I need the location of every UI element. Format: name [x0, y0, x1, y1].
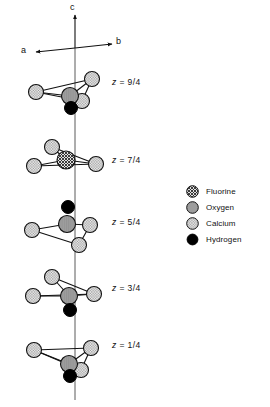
- axis-cross: [36, 15, 112, 52]
- z-value: 3/4: [128, 283, 141, 293]
- z-equals-sign: =: [117, 77, 128, 87]
- legend-item-oxygen: Oxygen: [186, 200, 270, 215]
- atom-hydrogen-hydrogen-bottom: Hydrogen: [64, 304, 77, 317]
- atom-hydrogen-hydrogen-bottom: Hydrogen: [65, 102, 78, 115]
- z-equals-sign: =: [117, 340, 128, 350]
- z-equals-sign: =: [117, 155, 128, 165]
- b-axis-arrow: [75, 44, 112, 48]
- z-label-1-4: z = 1/4: [112, 340, 141, 350]
- z-label-9-4: z = 9/4: [112, 77, 141, 87]
- legend-label: Oxygen: [206, 203, 234, 212]
- structure-figure: CalciumCalciumCalciumOxygenHydrogenCalci…: [0, 0, 270, 407]
- atom-hydrogen-hydrogen-bottom: Hydrogen: [64, 370, 77, 383]
- atom-calcium-calcium-right: Calcium: [87, 287, 102, 302]
- z-label-5-4: z = 5/4: [112, 217, 141, 227]
- atom-cluster-z-1-4: CalciumCalciumCalciumOxygenHydrogen: [27, 341, 99, 383]
- fluorine-atom-icon: [186, 185, 199, 198]
- a-axis-arrow: [36, 48, 75, 52]
- atom-calcium-calcium-upper-left: Calcium: [45, 270, 60, 285]
- legend-label: Calcium: [206, 219, 236, 228]
- atom-calcium-calcium-upper-right: Calcium: [84, 341, 99, 356]
- atom-cluster-z-3-4: CalciumCalciumCalciumOxygenHydrogen: [26, 270, 102, 317]
- hydrogen-atom-icon: [186, 233, 199, 246]
- legend-item-fluorine: Fluorine: [186, 184, 270, 199]
- atom-cluster-z-9-4: CalciumCalciumCalciumOxygenHydrogen: [29, 72, 100, 115]
- z-equals-sign: =: [117, 217, 128, 227]
- legend-item-hydrogen: Hydrogen: [186, 232, 270, 247]
- atom-oxygen-oxygen-center: Oxygen: [59, 216, 76, 233]
- z-equals-sign: =: [117, 283, 128, 293]
- legend: FluorineOxygenCalciumHydrogen: [186, 184, 270, 248]
- z-label-3-4: z = 3/4: [112, 283, 141, 293]
- atom-fluorine-fluorine-center: Fluorine: [57, 151, 75, 169]
- z-value: 5/4: [128, 217, 141, 227]
- axis-label-b: b: [116, 36, 121, 46]
- legend-label: Hydrogen: [206, 235, 242, 244]
- bond-calcium-left-to-calcium-upper-right: [34, 348, 91, 350]
- axis-label-a: a: [21, 45, 26, 55]
- calcium-atom-icon: [186, 217, 199, 230]
- oxygen-atom-icon: [186, 201, 199, 214]
- atom-cluster-z-7-4: CalciumCalciumCalciumFluorine: [27, 140, 104, 174]
- atom-hydrogen-hydrogen-top: Hydrogen: [62, 201, 75, 214]
- atom-calcium-calcium-right: Calcium: [89, 157, 104, 172]
- atom-calcium-calcium-left: Calcium: [27, 343, 42, 358]
- atom-clusters-layer: CalciumCalciumCalciumOxygenHydrogenCalci…: [25, 72, 104, 383]
- atom-calcium-calcium-left: Calcium: [29, 85, 44, 100]
- atom-calcium-calcium-upper-left: Calcium: [45, 140, 60, 155]
- atom-calcium-calcium-lower-left: Calcium: [27, 159, 42, 174]
- z-value: 1/4: [128, 340, 141, 350]
- axis-label-c: c: [70, 2, 75, 12]
- atom-calcium-calcium-right: Calcium: [83, 218, 98, 233]
- atom-oxygen-oxygen-center: Oxygen: [61, 288, 78, 305]
- atom-calcium-calcium-upper-right: Calcium: [85, 72, 100, 87]
- legend-item-calcium: Calcium: [186, 216, 270, 231]
- atom-calcium-calcium-left: Calcium: [25, 223, 40, 238]
- legend-label: Fluorine: [206, 187, 236, 196]
- z-value: 7/4: [128, 155, 141, 165]
- z-value: 9/4: [128, 77, 141, 87]
- z-label-7-4: z = 7/4: [112, 155, 141, 165]
- atom-calcium-calcium-lower-right: Calcium: [72, 238, 87, 253]
- atom-cluster-z-5-4: CalciumCalciumCalciumOxygenHydrogen: [25, 201, 98, 253]
- atom-calcium-calcium-left: Calcium: [26, 289, 41, 304]
